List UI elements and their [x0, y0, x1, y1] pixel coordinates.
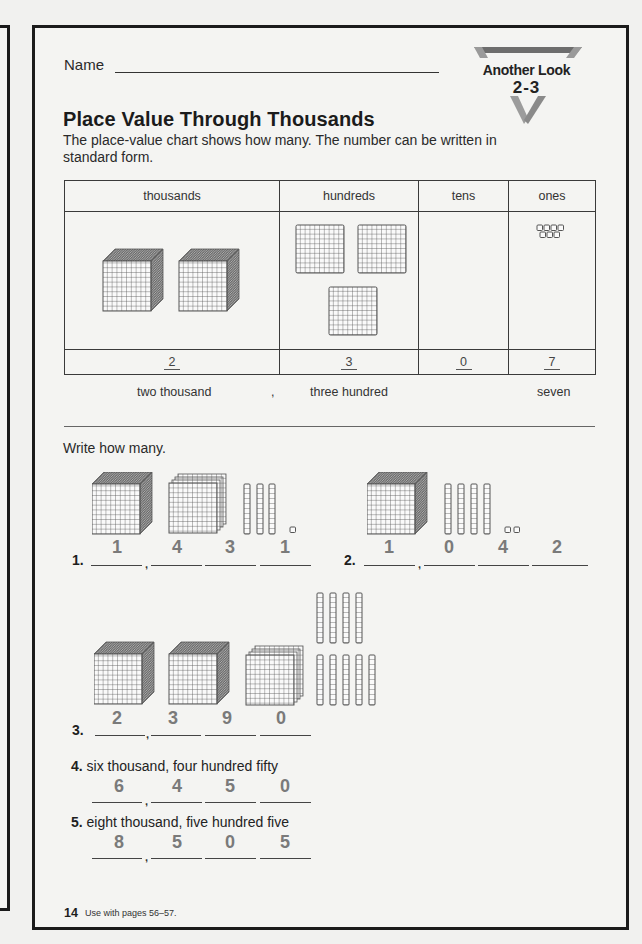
problem-3-number: 3.: [72, 722, 84, 738]
unit-cubes-icon: [509, 212, 595, 252]
problem-1-digit-tens[interactable]: 3: [205, 537, 255, 558]
section-divider: [64, 426, 595, 427]
problem-2-blank: [424, 565, 475, 566]
problem-1-digit-hundreds[interactable]: 4: [152, 537, 202, 558]
exercise-instruction: Write how many.: [63, 440, 166, 456]
problem-2-comma: ,: [418, 558, 421, 570]
problem-2-digit-ones[interactable]: 2: [532, 537, 582, 558]
problem-4-digit-tens[interactable]: 5: [205, 776, 255, 797]
problem-4-number: 4.: [71, 758, 83, 774]
value-tens: 0: [456, 356, 472, 370]
hundred-flats-icon: [280, 212, 418, 349]
place-value-chart: thousands hundreds tens ones 2: [64, 180, 596, 375]
problem-4-digit-thousands[interactable]: 6: [94, 776, 144, 797]
problem-4-blank: [260, 802, 311, 803]
header-thousands: thousands: [65, 181, 280, 212]
problem-4-blank: [92, 802, 142, 803]
problem-1-number: 1.: [72, 552, 84, 568]
problem-4-blank: [205, 802, 256, 803]
thousand-cubes-icon: [65, 212, 279, 349]
problem-1-blocks-icon: [92, 472, 312, 536]
problem-1-blank: [205, 565, 256, 566]
problem-1-blank: [260, 565, 311, 566]
problem-1-blank: [151, 565, 202, 566]
value-hundreds: 3: [341, 356, 357, 370]
problem-3-blocks-icon: [94, 592, 384, 707]
ones-blocks: [509, 212, 596, 350]
page-number: 14: [64, 906, 78, 920]
thousands-blocks: [65, 212, 280, 350]
problem-2-number: 2.: [344, 552, 356, 568]
problem-1-digit-thousands[interactable]: 1: [92, 537, 142, 558]
problem-2-blank: [478, 565, 529, 566]
problem-2-blocks-icon: [367, 472, 547, 536]
problem-4-digit-hundreds[interactable]: 4: [152, 776, 202, 797]
problem-4-blank: [151, 802, 202, 803]
badge-title: Another Look: [464, 63, 589, 78]
problem-5-blank: [205, 858, 256, 859]
value-ones: 7: [544, 356, 560, 370]
problem-4-digit-ones[interactable]: 0: [260, 776, 310, 797]
problem-3-blank: [205, 735, 256, 736]
footer-note: Use with pages 56–57.: [85, 908, 177, 918]
problem-5-number: 5.: [71, 814, 83, 830]
words-comma: ,: [271, 385, 274, 399]
words-thousands: two thousand: [137, 385, 211, 399]
problem-2-digit-tens[interactable]: 4: [478, 537, 528, 558]
words-hundreds: three hundred: [310, 385, 388, 399]
problem-5-digit-thousands[interactable]: 8: [94, 832, 144, 853]
problem-5-blank: [151, 858, 202, 859]
problem-2-blank: [532, 565, 588, 566]
adjacent-page-edge: [0, 25, 10, 911]
problem-1-blank: [91, 565, 142, 566]
words-ones: seven: [537, 385, 570, 399]
problem-5-statement: 5. eight thousand, five hundred five: [71, 814, 289, 830]
hundreds-blocks: [280, 212, 419, 350]
problem-5-digit-ones[interactable]: 5: [260, 832, 310, 853]
tens-blocks: [419, 212, 509, 350]
problem-1-comma: ,: [145, 558, 148, 570]
problem-4-statement: 4. six thousand, four hundred fifty: [71, 758, 278, 774]
problem-3-blank: [260, 735, 311, 736]
problem-5-comma: ,: [145, 851, 148, 863]
badge-number: 2-3: [464, 78, 589, 98]
problem-3-digit-thousands[interactable]: 2: [92, 708, 142, 729]
header-hundreds: hundreds: [280, 181, 419, 212]
value-thousands: 2: [164, 356, 180, 370]
problem-2-blank: [364, 565, 415, 566]
problem-3-comma: ,: [146, 728, 149, 740]
problem-1-digit-ones[interactable]: 1: [260, 537, 310, 558]
header-tens: tens: [419, 181, 509, 212]
name-label: Name: [64, 56, 104, 73]
problem-3-blank: [151, 735, 201, 736]
lesson-title: Place Value Through Thousands: [63, 108, 375, 131]
problem-5-digit-tens[interactable]: 0: [205, 832, 255, 853]
problem-5-prompt: eight thousand, five hundred five: [87, 814, 289, 830]
problem-5-blank: [92, 858, 142, 859]
header-ones: ones: [509, 181, 596, 212]
problem-2-digit-thousands[interactable]: 1: [364, 537, 414, 558]
problem-3-digit-hundreds[interactable]: 3: [148, 708, 198, 729]
lesson-intro: The place-value chart shows how many. Th…: [63, 132, 533, 166]
problem-3-digit-ones[interactable]: 0: [256, 708, 306, 729]
problem-5-blank: [260, 858, 311, 859]
name-field[interactable]: [115, 72, 439, 73]
problem-4-comma: ,: [145, 795, 148, 807]
problem-4-prompt: six thousand, four hundred fifty: [87, 758, 278, 774]
problem-3-digit-tens[interactable]: 9: [202, 708, 252, 729]
problem-2-digit-hundreds[interactable]: 0: [424, 537, 474, 558]
problem-3-blank: [95, 735, 145, 736]
problem-5-digit-hundreds[interactable]: 5: [152, 832, 202, 853]
